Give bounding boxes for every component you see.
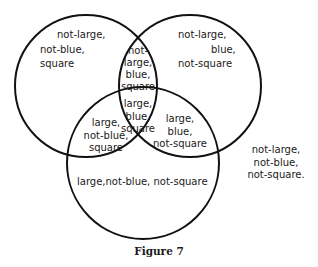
- label-line: not-blue,: [82, 130, 130, 143]
- region-left-bottom: large, not-blue, square: [82, 117, 130, 155]
- label-line: blue,: [150, 126, 210, 139]
- region-left-right: not- large, blue, square: [118, 45, 158, 93]
- region-right-bottom: large, blue, not-square: [150, 113, 210, 151]
- label-line: not-large,: [40, 29, 106, 42]
- label-line: not-square.: [240, 169, 312, 182]
- region-outside: not-large, not-blue, not-square.: [240, 144, 312, 182]
- label-line: not-blue,: [240, 157, 312, 170]
- label-line: large,: [82, 117, 130, 130]
- label-line: large,: [150, 113, 210, 126]
- label-line: large,: [118, 98, 158, 111]
- region-bottom-only: large,not-blue, not-square: [77, 176, 208, 189]
- label-line: not-square: [178, 58, 236, 71]
- region-right-only: not-large, blue, not-square: [178, 29, 236, 71]
- figure-caption: Figure 7: [0, 245, 318, 257]
- label-line: not-square: [150, 138, 210, 151]
- region-left-only: not-large, not-blue, square: [40, 29, 106, 71]
- label-line: not-blue,: [40, 44, 106, 57]
- label-line: blue,: [178, 44, 236, 57]
- label-line: not-: [118, 45, 158, 57]
- label-line: not-large,: [240, 144, 312, 157]
- label-line: blue,: [118, 69, 158, 81]
- label-line: square: [118, 81, 158, 93]
- label-line: square: [40, 58, 106, 71]
- label-line: square: [82, 142, 130, 155]
- label-line: not-large,: [178, 29, 236, 42]
- label-line: large,: [118, 57, 158, 69]
